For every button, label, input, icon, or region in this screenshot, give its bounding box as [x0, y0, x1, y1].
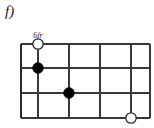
fret-position-label: 6fr — [33, 31, 43, 40]
open-circle-marker-2 — [126, 113, 136, 123]
open-circle-marker-1 — [33, 39, 43, 49]
filled-dot-marker-2 — [64, 88, 75, 99]
filled-dot-marker-1 — [33, 63, 44, 74]
fretboard-frets — [21, 44, 150, 118]
chord-diagram-figure: f) 6fr — [0, 0, 154, 128]
chord-markers — [33, 39, 137, 123]
chord-diagram-canvas: 6fr — [0, 0, 154, 128]
